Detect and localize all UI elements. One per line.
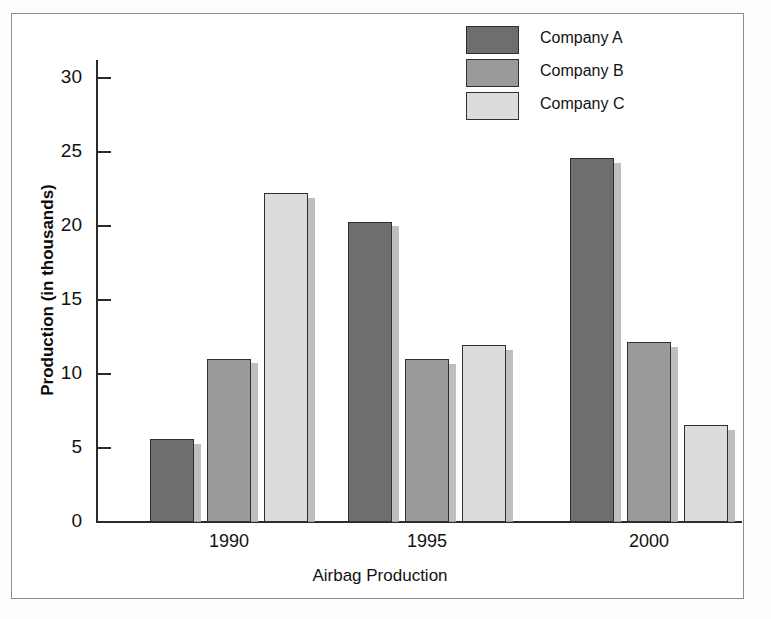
y-axis-tick-5 <box>98 447 111 449</box>
y-axis-tick-25 <box>98 151 111 153</box>
bar-shadow-1995-company-c <box>506 350 513 522</box>
x-axis-tick-label-2000: 2000 <box>589 531 709 552</box>
legend-swatch-company-b <box>466 59 519 87</box>
legend-swatch-company-a <box>466 26 519 54</box>
y-axis-tick-label-0: 0 <box>22 510 82 532</box>
bar-1990-company-c <box>264 193 308 522</box>
legend-swatch-company-c <box>466 92 519 120</box>
bar-1990-company-a <box>150 439 194 522</box>
x-axis-tick-label-1990: 1990 <box>169 531 289 552</box>
y-axis-line <box>96 60 98 523</box>
chart-page: 30 25 20 15 10 5 0 19 <box>0 0 771 619</box>
y-axis-tick-20 <box>98 225 111 227</box>
bar-2000-company-a <box>570 158 614 522</box>
legend-label-company-c: Company C <box>540 95 624 113</box>
legend-label-company-b: Company B <box>540 62 624 80</box>
x-axis-title: Airbag Production <box>0 566 760 586</box>
legend-item-company-c: Company C <box>466 90 726 123</box>
bar-shadow-1995-company-a <box>392 226 399 522</box>
bar-shadow-1990-company-b <box>251 363 258 522</box>
bar-shadow-2000-company-c <box>728 430 735 522</box>
y-axis-tick-15 <box>98 299 111 301</box>
bar-shadow-1990-company-c <box>308 198 315 522</box>
y-axis-tick-label-30: 30 <box>22 66 82 88</box>
bar-shadow-2000-company-a <box>614 163 621 522</box>
bar-2000-company-b <box>627 342 671 522</box>
y-axis-tick-10 <box>98 373 111 375</box>
legend-label-company-a: Company A <box>540 29 623 47</box>
legend-item-company-b: Company B <box>466 57 726 90</box>
bar-1995-company-b <box>405 359 449 522</box>
bar-shadow-1990-company-a <box>194 444 201 522</box>
bar-shadow-2000-company-b <box>671 347 678 522</box>
plot-area: 30 25 20 15 10 5 0 19 <box>0 0 771 619</box>
legend-item-company-a: Company A <box>466 24 726 57</box>
bar-2000-company-c <box>684 425 728 522</box>
chart-legend: Company A Company B Company C <box>466 24 726 123</box>
x-axis-tick-label-1995: 1995 <box>367 531 487 552</box>
bar-shadow-1995-company-b <box>449 364 456 522</box>
y-axis-tick-30 <box>98 77 111 79</box>
bar-1990-company-b <box>207 359 251 522</box>
y-axis-title: Production (in thousands) <box>38 130 58 450</box>
bar-1995-company-c <box>462 345 506 522</box>
bar-1995-company-a <box>348 222 392 522</box>
